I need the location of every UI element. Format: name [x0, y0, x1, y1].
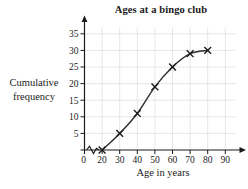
svg-text:5: 5 — [74, 129, 79, 139]
svg-text:35: 35 — [69, 29, 79, 39]
svg-text:90: 90 — [221, 155, 231, 165]
x-axis-arrow-icon — [240, 147, 247, 153]
svg-text:40: 40 — [133, 155, 143, 165]
y-axis-label: Cumulative frequency — [1, 76, 67, 104]
svg-text:30: 30 — [115, 155, 125, 165]
axes — [82, 16, 246, 153]
x-axis-label: Age in years — [84, 167, 242, 178]
svg-text:30: 30 — [69, 46, 79, 56]
chart-container: Ages at a bingo club Cumulative frequenc… — [0, 0, 248, 189]
chart-title: Ages at a bingo club — [80, 4, 242, 15]
svg-text:15: 15 — [69, 96, 79, 106]
svg-text:20: 20 — [97, 155, 107, 165]
y-tick-labels: 5101520253035 — [69, 29, 79, 139]
gridlines — [85, 28, 237, 151]
svg-text:70: 70 — [185, 155, 195, 165]
svg-text:60: 60 — [168, 155, 178, 165]
svg-text:25: 25 — [69, 62, 79, 72]
y-axis-arrow-icon — [82, 16, 88, 23]
x-tick-labels: 02030405060708090 — [81, 155, 230, 165]
svg-text:20: 20 — [69, 79, 79, 89]
svg-text:50: 50 — [150, 155, 160, 165]
svg-text:0: 0 — [81, 155, 86, 165]
svg-text:10: 10 — [69, 112, 79, 122]
svg-text:80: 80 — [203, 155, 213, 165]
